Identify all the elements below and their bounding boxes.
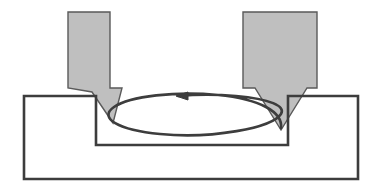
tool-path-diagram: Machining tool path diagram Two shaded p… (0, 0, 379, 191)
diagram-root: Machining tool path diagram Two shaded p… (0, 0, 379, 191)
